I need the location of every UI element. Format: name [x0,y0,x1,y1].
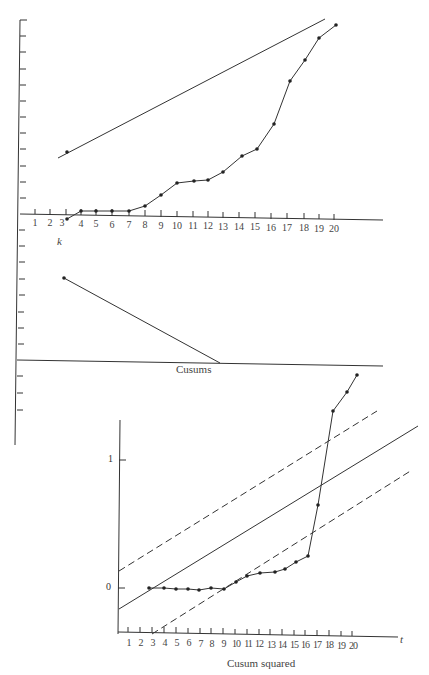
bottom-lower-dashed [152,470,412,634]
tick-label: 10 [172,220,182,231]
tick-label: 17 [282,222,292,233]
bottom-x-axis-label: t [400,633,403,645]
top-chart-title: Cusums [176,363,211,375]
tick-label: 6 [110,219,115,230]
tick-label: 3 [151,637,156,648]
tick-label: 5 [94,218,99,229]
top-upper-line [58,19,325,158]
tick-label: 17 [313,639,321,650]
tick-label: 5 [175,637,180,648]
tick-label: 20 [329,223,339,234]
tick-label: 15 [250,221,260,232]
top-y-axis [15,20,20,445]
top-lower-line [64,278,220,363]
tick-label: 9 [159,220,164,231]
tick-label: 19 [314,223,324,234]
tick-label: 4 [79,218,84,229]
top-y-ticks [17,20,27,410]
cusum-series [67,25,336,219]
tick-label: 13 [267,639,275,650]
tick-label: 11 [188,220,198,231]
bottom-y-axis [118,420,120,634]
tick-label: 20 [349,640,357,651]
tick-label: 9 [222,638,227,649]
tick-label: 1 [127,637,132,648]
tick-label: 16 [266,222,276,233]
tick-label: 1 [33,217,38,228]
tick-label: 8 [210,638,215,649]
bottom-chart-title: Cusum squared [227,657,295,669]
bottom-expected-line [119,426,418,609]
tick-label: 4 [163,637,168,648]
bottom-y-label-0: 0 [106,581,111,592]
tick-label: 12 [203,220,213,231]
tick-label: 13 [218,221,228,232]
tick-label: 18 [325,639,333,650]
tick-label: 10 [232,638,240,649]
tick-label: 3 [60,217,65,228]
tick-label: 19 [337,640,345,651]
tick-label: 2 [48,217,53,228]
bottom-upper-dashed [119,411,377,571]
tick-label: 7 [127,219,132,230]
tick-label: 15 [290,639,298,650]
tick-label: 18 [299,222,309,233]
tick-label: 2 [139,637,144,648]
data-markers [62,23,359,592]
tick-label: 16 [301,639,309,650]
bottom-x-axis [118,632,398,637]
tick-label: 8 [143,219,148,230]
tick-label: 14 [278,639,286,650]
tick-label: 14 [234,221,244,232]
cusum-figure [0,0,429,675]
tick-label: 11 [244,638,252,649]
tick-label: 7 [199,638,204,649]
tick-label: 12 [255,638,263,649]
bottom-y-label-1: 1 [108,453,113,464]
top-x-axis-label: k [57,235,62,247]
tick-label: 6 [187,637,192,648]
